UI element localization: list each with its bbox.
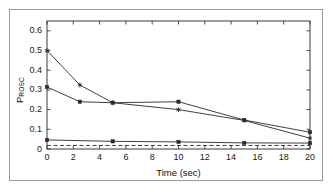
data-point-marker bbox=[308, 131, 311, 134]
data-point-marker bbox=[243, 141, 246, 144]
axes-group bbox=[47, 21, 310, 149]
x-tick-label: 12 bbox=[197, 153, 213, 162]
x-tick-label: 10 bbox=[171, 153, 187, 162]
data-point-marker bbox=[111, 101, 114, 104]
y-tick-label: 0.1 bbox=[18, 125, 42, 134]
y-axis-title-subscript: ROSC bbox=[18, 77, 25, 97]
data-point-marker bbox=[243, 118, 246, 121]
data-point-marker bbox=[177, 100, 180, 103]
x-tick-label: 14 bbox=[223, 153, 239, 162]
x-tick-label: 16 bbox=[249, 153, 265, 162]
figure-container: 00.10.20.30.40.50.6 02468101214161820 Ti… bbox=[0, 0, 333, 192]
data-point-marker bbox=[45, 85, 48, 88]
x-tick-label: 0 bbox=[39, 153, 55, 162]
data-series-group bbox=[45, 48, 312, 145]
y-tick-label: 0.6 bbox=[18, 26, 42, 35]
x-tick-label: 20 bbox=[302, 153, 318, 162]
x-tick-label: 8 bbox=[144, 153, 160, 162]
y-tick-label: 0.5 bbox=[18, 46, 42, 55]
x-tick-label: 18 bbox=[276, 153, 292, 162]
x-tick-label: 6 bbox=[118, 153, 134, 162]
data-point-marker bbox=[308, 141, 311, 144]
data-point-marker bbox=[45, 138, 48, 141]
data-point-marker bbox=[111, 140, 114, 143]
chart-plot-area bbox=[0, 0, 333, 192]
y-tick-label: 0.2 bbox=[18, 105, 42, 114]
data-point-marker bbox=[78, 100, 81, 103]
data-point-marker bbox=[177, 140, 180, 143]
y-axis-title: PROSC bbox=[14, 77, 25, 103]
x-axis-title: Time (sec) bbox=[47, 167, 310, 178]
x-tick-label: 4 bbox=[92, 153, 108, 162]
x-tick-label: 2 bbox=[65, 153, 81, 162]
y-axis-title-main: P bbox=[14, 97, 25, 103]
y-tick-label: 0.4 bbox=[18, 66, 42, 75]
